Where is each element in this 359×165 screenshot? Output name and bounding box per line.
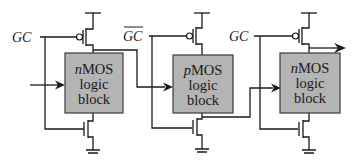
clock-label-stage-2: GC	[123, 29, 143, 44]
ground-icon	[86, 150, 100, 153]
ground-icon	[302, 150, 316, 153]
block-label-line2: logic	[189, 77, 218, 93]
stage-1: GC nMOS logic block	[12, 13, 173, 153]
block-label-line3: block	[294, 90, 327, 106]
block-label-line1: nMOS	[291, 60, 330, 76]
source-lead	[197, 135, 202, 149]
block-label-line1: pMOS	[183, 62, 223, 78]
drain-lead	[86, 45, 93, 53]
circuit-diagram: GC nMOS logic block	[0, 0, 359, 165]
source-lead	[86, 13, 93, 29]
block-label-line3: block	[78, 91, 111, 107]
stage-3: GC nMOS logic block	[229, 13, 346, 153]
ground-icon	[195, 149, 209, 152]
drain-lead	[196, 44, 202, 55]
source-lead	[196, 13, 202, 28]
source-lead	[303, 137, 309, 150]
nmos-footer-transistor-stage-3	[299, 113, 316, 153]
pmos-transistor-stage-2	[187, 13, 211, 55]
block-label-line1: nMOS	[75, 61, 114, 77]
inversion-bubble	[187, 33, 193, 39]
stage-2: GC pMOS logic block	[123, 13, 281, 152]
pmos-precharge-transistor-stage-1	[77, 13, 102, 53]
source-lead	[302, 13, 309, 28]
drain-lead	[303, 113, 309, 121]
clock-label-stage-1: GC	[12, 30, 32, 45]
nmos-transistor-stage-2	[193, 113, 209, 152]
inversion-bubble	[293, 33, 299, 39]
block-label-line2: logic	[80, 76, 109, 92]
drain-lead	[302, 44, 309, 53]
drain-lead	[88, 113, 93, 121]
drain-lead	[197, 113, 202, 119]
block-label-line3: block	[187, 92, 220, 108]
source-lead	[88, 137, 93, 150]
inversion-bubble	[77, 34, 83, 40]
block-label-line2: logic	[296, 75, 325, 91]
pmos-precharge-transistor-stage-3	[293, 13, 318, 53]
nmos-footer-transistor-stage-1	[84, 113, 100, 153]
clock-label-stage-3: GC	[229, 29, 249, 44]
